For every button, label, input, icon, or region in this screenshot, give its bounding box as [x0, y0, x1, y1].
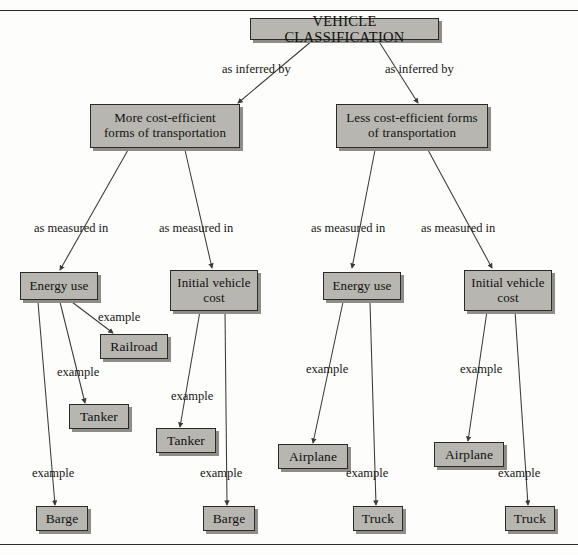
node-initial-vehicle-cost-right[interactable]: Initial vehicle cost [464, 270, 552, 311]
edge-label-as-measured-in-1: as measured in [34, 221, 108, 236]
edge-more-to-cost [185, 150, 212, 268]
node-label-line2: cost [203, 291, 224, 306]
node-label: Airplane [289, 449, 337, 464]
edge-label-example-tanker-right: example [171, 389, 213, 404]
node-label: Barge [213, 511, 246, 526]
node-label: Truck [362, 511, 394, 526]
edge-less-to-energy [352, 150, 375, 268]
edge-more-to-energy [60, 150, 128, 270]
edge-less-to-cost [428, 150, 492, 268]
node-barge-left[interactable]: Barge [36, 506, 88, 531]
concept-map-page: VEHICLE CLASSIFICATION More cost-efficie… [0, 0, 578, 555]
node-truck-cost[interactable]: Truck [505, 506, 555, 531]
node-label-line1: Less cost-efficient forms [346, 111, 478, 126]
node-label-line1: Initial vehicle [471, 276, 544, 291]
edge-label-as-measured-in-4: as measured in [421, 221, 495, 236]
node-label: Tanker [167, 433, 205, 448]
node-truck-energy[interactable]: Truck [353, 506, 403, 531]
node-tanker-left[interactable]: Tanker [69, 404, 129, 429]
node-initial-vehicle-cost-left[interactable]: Initial vehicle cost [170, 270, 258, 311]
edge-label-example-barge-left: example [32, 466, 74, 481]
node-label: Truck [514, 511, 546, 526]
node-label-line2: of transportation [368, 126, 456, 141]
node-label-line1: More cost-efficient [114, 111, 216, 126]
node-label: Railroad [110, 339, 157, 354]
node-label: Barge [46, 511, 79, 526]
node-tanker-right[interactable]: Tanker [156, 428, 216, 453]
node-label-line2: cost [497, 291, 518, 306]
node-label: VEHICLE CLASSIFICATION [251, 13, 438, 45]
edge-energy1-to-tanker [60, 302, 85, 403]
node-airplane-energy[interactable]: Airplane [278, 444, 348, 469]
node-energy-use-right[interactable]: Energy use [323, 272, 401, 300]
node-label: Tanker [80, 409, 118, 424]
node-energy-use-left[interactable]: Energy use [20, 272, 98, 300]
edge-label-example-barge-right: example [200, 466, 242, 481]
edge-label-as-measured-in-2: as measured in [159, 221, 233, 236]
edge-label-as-inferred-by-left: as inferred by [222, 62, 291, 77]
node-railroad[interactable]: Railroad [100, 334, 168, 359]
edge-label-as-inferred-by-right: as inferred by [385, 62, 454, 77]
node-airplane-cost[interactable]: Airplane [434, 442, 504, 467]
node-label-line2: forms of transportation [104, 126, 226, 141]
node-label: Energy use [333, 279, 392, 294]
node-more-cost-efficient[interactable]: More cost-efficient forms of transportat… [90, 104, 240, 148]
node-label: Energy use [30, 279, 89, 294]
edge-cost1-to-tanker [180, 311, 200, 427]
node-barge-right[interactable]: Barge [203, 506, 255, 531]
edge-label-example-airplane-cost: example [460, 362, 502, 377]
edge-label-example-tanker-left: example [57, 365, 99, 380]
node-less-cost-efficient[interactable]: Less cost-efficient forms of transportat… [336, 104, 488, 148]
node-vehicle-classification[interactable]: VEHICLE CLASSIFICATION [250, 18, 439, 40]
edge-label-example-airplane-energy: example [306, 362, 348, 377]
edge-label-example-truck-cost: example [498, 466, 540, 481]
node-label: Airplane [445, 447, 493, 462]
edge-label-example-truck-energy: example [346, 466, 388, 481]
node-label-line1: Initial vehicle [177, 276, 250, 291]
edge-label-example-railroad: example [98, 310, 140, 325]
edge-label-as-measured-in-3: as measured in [311, 221, 385, 236]
